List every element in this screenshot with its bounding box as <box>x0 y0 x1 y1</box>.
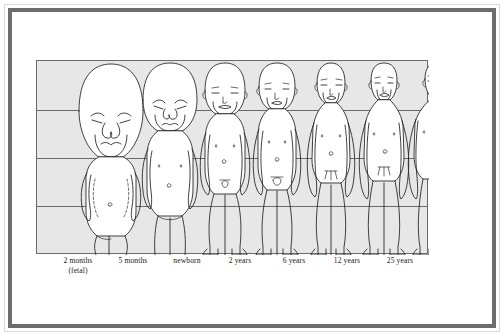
stage-label-line1: 2 months <box>64 256 93 265</box>
figure-5-months <box>142 63 198 255</box>
stage-labels: 2 months (fetal) 5 months newborn 2 year… <box>36 256 428 296</box>
stage-label-line1: newborn <box>173 256 200 265</box>
figure-12-years <box>359 63 409 255</box>
stage-label-line1: 5 months <box>119 256 148 265</box>
figure-page: 2 months (fetal) 5 months newborn 2 year… <box>0 0 504 336</box>
growth-chart-panel <box>36 60 428 254</box>
stage-label-line1: 12 years <box>334 256 360 265</box>
figure-2-months-fetal <box>79 64 143 255</box>
stage-label-line1: 6 years <box>283 256 305 265</box>
stage-label-line1: 25 years <box>387 256 413 265</box>
body-figures-layer <box>37 61 429 255</box>
figure-newborn <box>200 63 250 255</box>
stage-label-line1: 2 years <box>229 256 251 265</box>
stage-label-line2: (fetal) <box>36 266 120 276</box>
figure-6-years <box>307 63 355 255</box>
stage-label-25-years: 25 years <box>358 256 442 266</box>
figure-2-years <box>253 63 301 255</box>
figure-25-years <box>408 63 429 255</box>
